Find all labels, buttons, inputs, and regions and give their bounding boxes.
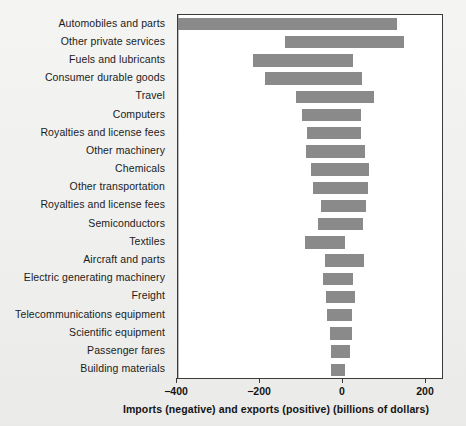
bar-row bbox=[178, 343, 442, 361]
category-label: Other transportation bbox=[70, 181, 165, 192]
category-label: Scientific equipment bbox=[69, 327, 165, 338]
category-label: Telecommunications equipment bbox=[15, 309, 165, 320]
category-label: Textiles bbox=[129, 236, 165, 247]
bar bbox=[321, 200, 366, 212]
category-label: Passenger fares bbox=[87, 345, 165, 356]
bar bbox=[302, 109, 362, 121]
x-axis-tick bbox=[342, 378, 343, 383]
bar-series-group bbox=[178, 15, 442, 378]
bar bbox=[330, 327, 352, 339]
bar-row bbox=[178, 233, 442, 251]
x-axis-tick-label: 0 bbox=[339, 385, 345, 397]
bar-row bbox=[178, 324, 442, 342]
bar-row bbox=[178, 88, 442, 106]
category-label: Travel bbox=[136, 90, 165, 101]
category-label: Other private services bbox=[61, 36, 165, 47]
x-axis-tick bbox=[259, 378, 260, 383]
category-label: Automobiles and parts bbox=[58, 18, 165, 29]
bar bbox=[178, 18, 397, 30]
bar-row bbox=[178, 252, 442, 270]
x-axis-tick-label: −200 bbox=[247, 385, 271, 397]
category-label: Freight bbox=[132, 290, 165, 301]
bar-row bbox=[178, 306, 442, 324]
category-label: Electric generating machinery bbox=[24, 272, 165, 283]
plot-area bbox=[177, 14, 443, 378]
category-label: Royalties and license fees bbox=[40, 199, 165, 210]
x-axis-tick-label: 200 bbox=[416, 385, 434, 397]
bar-row bbox=[178, 124, 442, 142]
bar-row bbox=[178, 161, 442, 179]
bar-row bbox=[178, 179, 442, 197]
bar bbox=[331, 364, 344, 376]
bar bbox=[318, 218, 363, 230]
bar-row bbox=[178, 70, 442, 88]
category-axis-labels: Automobiles and partsOther private servi… bbox=[0, 14, 171, 378]
category-label: Royalties and license fees bbox=[40, 127, 165, 138]
x-axis-line bbox=[177, 378, 443, 379]
bar-row bbox=[178, 215, 442, 233]
bar bbox=[296, 91, 374, 103]
bar bbox=[265, 72, 362, 84]
chart-container: Automobiles and partsOther private servi… bbox=[0, 0, 466, 426]
category-label: Chemicals bbox=[115, 163, 165, 174]
bar-row bbox=[178, 197, 442, 215]
bar bbox=[306, 145, 365, 157]
bar bbox=[305, 236, 345, 248]
bar bbox=[327, 309, 352, 321]
x-axis-tick bbox=[425, 378, 426, 383]
bar-row bbox=[178, 15, 442, 33]
x-axis-tick bbox=[176, 378, 177, 383]
category-label: Semiconductors bbox=[88, 218, 165, 229]
bar bbox=[253, 54, 353, 66]
bar bbox=[285, 36, 404, 48]
category-label: Building materials bbox=[80, 363, 165, 374]
bar bbox=[307, 127, 361, 139]
bar bbox=[323, 273, 353, 285]
category-label: Fuels and lubricants bbox=[69, 54, 165, 65]
x-axis-tick-label: −400 bbox=[164, 385, 188, 397]
bar bbox=[326, 291, 354, 303]
bar bbox=[325, 254, 364, 266]
bar bbox=[331, 345, 350, 357]
bar-row bbox=[178, 51, 442, 69]
bar-row bbox=[178, 288, 442, 306]
category-label: Aircraft and parts bbox=[83, 254, 165, 265]
bar bbox=[311, 163, 369, 175]
category-label: Consumer durable goods bbox=[45, 72, 165, 83]
bar-row bbox=[178, 270, 442, 288]
bar-row bbox=[178, 33, 442, 51]
x-axis-title-text: Imports (negative) and exports (positive… bbox=[37, 403, 429, 415]
category-label: Computers bbox=[113, 109, 165, 120]
bar-row bbox=[178, 361, 442, 379]
bar-row bbox=[178, 142, 442, 160]
x-axis-title: Imports (negative) and exports (positive… bbox=[0, 403, 466, 415]
category-label: Other machinery bbox=[86, 145, 165, 156]
bar bbox=[313, 182, 368, 194]
bar-row bbox=[178, 106, 442, 124]
